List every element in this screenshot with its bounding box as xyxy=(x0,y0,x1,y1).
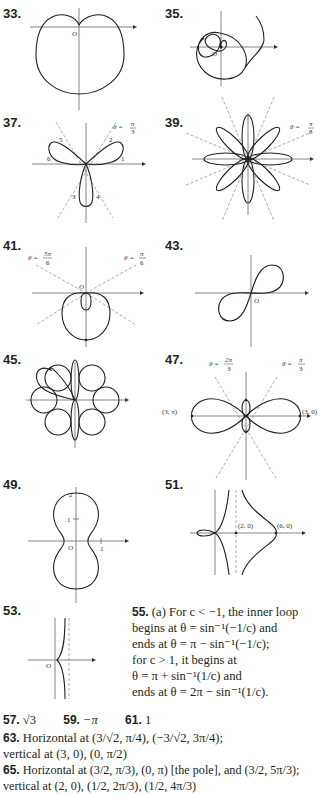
pole-label: O xyxy=(212,50,217,58)
graph-47-svg: (3, π) (3, 0) θ = 2π 3 θ = π 3 xyxy=(160,350,321,475)
theta-label: θ = xyxy=(290,123,300,131)
answer-65: 65. Horizontal at (3/2, π/3), (0, π) [th… xyxy=(3,762,299,794)
frac-num: π xyxy=(309,120,313,128)
answer-57-label: 57. xyxy=(3,713,20,727)
frac-den: 6 xyxy=(140,259,144,267)
frac-num: 5π xyxy=(44,250,52,258)
frac-num: 2π xyxy=(225,356,233,364)
frac-num: π xyxy=(131,120,135,128)
frac-den: 3 xyxy=(299,365,303,373)
graph-45 xyxy=(0,350,160,475)
pole-label: O xyxy=(72,30,77,38)
answer-55-line-2: begins at θ = sin⁻¹(−1/c) and xyxy=(132,620,298,636)
answer-55: 55. (a) For c < −1, the inner loop begin… xyxy=(132,604,298,700)
graph-43: O xyxy=(160,235,321,350)
frac-num: π xyxy=(299,356,303,364)
graph-35-svg: O xyxy=(160,0,321,115)
point-label-6-0: (6, 0) xyxy=(277,522,293,530)
graph-39-svg: θ = π 8 xyxy=(160,115,321,235)
theta-label-left: θ = xyxy=(209,360,219,368)
graph-41: O θ = 5π 6 θ = π 6 xyxy=(0,235,160,350)
graph-33: O xyxy=(0,0,160,115)
pole-label: O xyxy=(68,544,73,552)
answer-65-line-1: Horizontal at (3/2, π/3), (0, π) [the po… xyxy=(23,763,300,777)
answer-55-line-4: for c > 1, it begins at xyxy=(132,652,298,668)
graph-35: O xyxy=(160,0,321,115)
answer-63-label: 63. xyxy=(3,731,20,745)
arc-label-3: 3 xyxy=(72,193,76,201)
frac-den: 6 xyxy=(46,259,50,267)
graph-47: (3, π) (3, 0) θ = 2π 3 θ = π 3 xyxy=(160,350,321,475)
answer-55-line-3: ends at θ = π − sin⁻¹(−1/c); xyxy=(132,636,298,652)
theta-label-right: θ = xyxy=(282,360,292,368)
graph-39: θ = π 8 xyxy=(160,115,321,235)
graph-45-svg xyxy=(0,350,160,475)
point-label-2-0: (2, 0) xyxy=(238,522,254,530)
answer-61-label: 61. xyxy=(125,713,142,727)
arc-label-4: 4 xyxy=(96,193,100,201)
pole-label: O xyxy=(254,297,259,305)
graph-53: O xyxy=(0,600,100,700)
answer-59-value: −π xyxy=(83,713,98,727)
tick-label-x1: 1 xyxy=(100,545,104,553)
graph-37: θ = π 3 1 2 3 4 5 6 xyxy=(0,115,160,235)
answers-57-59-61: 57. √3 59. −π 61. 1 xyxy=(3,712,151,728)
tick-label-1: 1 xyxy=(67,516,71,524)
answer-65-line-2: vertical at (2, 0), (1/2, 2π/3), (1/2, 4… xyxy=(3,778,299,794)
arc-label-5: 5 xyxy=(59,136,63,144)
theta-label-left: θ = xyxy=(28,254,38,262)
graph-49: 2 1 O 1 xyxy=(0,475,160,605)
answer-63-line-1: Horizontal at (3/√2, π/4), (−3/√2, 3π/4)… xyxy=(23,731,223,745)
point-label-3-0: (3, 0) xyxy=(302,408,318,416)
answer-55-label: 55. xyxy=(132,605,149,619)
arc-label-6: 6 xyxy=(47,155,51,163)
graph-37-svg: θ = π 3 1 2 3 4 5 6 xyxy=(0,115,160,235)
graph-53-svg: O xyxy=(0,600,100,700)
frac-den: 3 xyxy=(227,365,231,373)
graph-33-svg: O xyxy=(0,0,160,115)
answer-55-line-1: (a) For c < −1, the inner loop xyxy=(152,605,298,619)
tick-label-2: 2 xyxy=(69,491,73,499)
theta-label-right: θ = xyxy=(124,254,134,262)
graph-43-svg: O xyxy=(160,235,321,350)
answer-63-line-2: vertical at (3, 0), (0, π/2) xyxy=(3,746,223,762)
theta-label: θ = xyxy=(113,123,123,131)
answer-63: 63. Horizontal at (3/√2, π/4), (−3/√2, 3… xyxy=(3,730,223,762)
answer-59-label: 59. xyxy=(63,713,80,727)
graph-41-svg: O θ = 5π 6 θ = π 6 xyxy=(0,235,160,350)
graph-49-svg: 2 1 O 1 xyxy=(0,475,160,605)
graph-51: (2, 0) (6, 0) xyxy=(160,475,321,605)
frac-den: 8 xyxy=(309,128,313,136)
pole-label: O xyxy=(79,283,84,291)
pole-label: O xyxy=(46,662,51,670)
answer-61-value: 1 xyxy=(145,713,151,727)
point-label-3-pi: (3, π) xyxy=(162,408,178,416)
answer-55-line-5: θ = π + sin⁻¹(1/c) and xyxy=(132,668,298,684)
answer-55-line-6: ends at θ = 2π − sin⁻¹(1/c). xyxy=(132,684,298,700)
answer-65-label: 65. xyxy=(3,763,20,777)
graph-51-svg: (2, 0) (6, 0) xyxy=(160,475,321,605)
arc-label-1: 1 xyxy=(121,155,125,163)
frac-num: π xyxy=(140,250,144,258)
answer-57-value: √3 xyxy=(23,713,36,727)
frac-den: 3 xyxy=(131,128,135,136)
arc-label-2: 2 xyxy=(109,136,113,144)
